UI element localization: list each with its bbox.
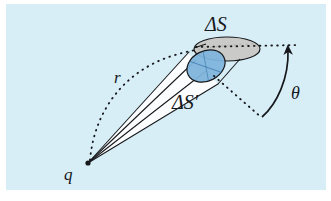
diagram-canvas bbox=[0, 0, 331, 201]
label-charge-q: q bbox=[64, 166, 73, 183]
label-delta-s-prime: ΔS′ bbox=[172, 92, 198, 112]
label-delta-s: ΔS bbox=[205, 14, 227, 34]
figure-root: ΔS ΔS′ r θ q bbox=[0, 0, 331, 201]
label-radius-r: r bbox=[114, 69, 121, 86]
label-angle-theta: θ bbox=[291, 84, 300, 102]
point-charge-dot bbox=[85, 160, 90, 165]
